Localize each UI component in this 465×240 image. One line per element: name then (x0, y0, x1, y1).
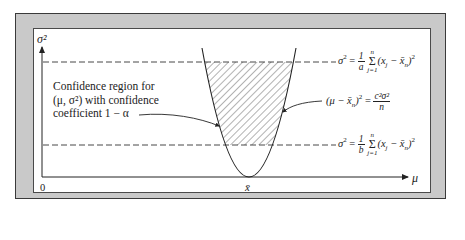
parabola-leader-arrow (283, 101, 322, 112)
y-axis-label: σ² (37, 33, 47, 45)
x-axis-label: μ (412, 172, 418, 184)
hatched-confidence-region (190, 62, 310, 145)
origin-label: 0 (40, 183, 45, 194)
x-bar-tick-label: x̄ (245, 182, 250, 193)
confidence-region-label: Confidence region for (μ, σ²) with confi… (53, 80, 159, 121)
lower-bound-equation: σ2 = 1b nΣj=1(xj − x̄n)2 (338, 132, 415, 157)
upper-bound-equation: σ2 = 1a nΣj=1(xj − x̄n)2 (338, 49, 415, 74)
parabola-equation: (μ − x̄n)2 = c²σ²n (326, 91, 390, 112)
